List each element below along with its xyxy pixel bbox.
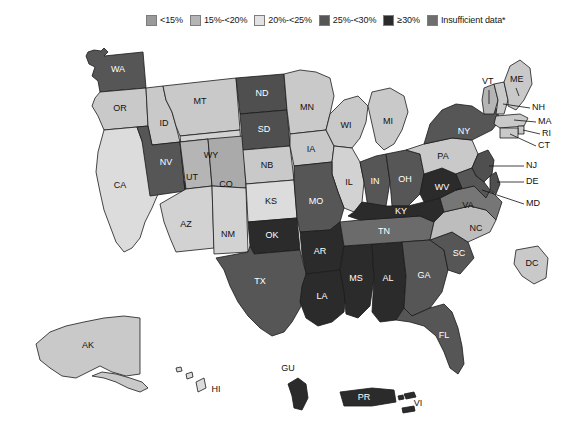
label-wi: WI bbox=[341, 120, 352, 130]
callout-vt: VT bbox=[482, 76, 494, 86]
label-tn: TN bbox=[378, 226, 390, 236]
label-vi: VI bbox=[414, 398, 423, 408]
state-nm[interactable] bbox=[212, 186, 248, 254]
legend-swatch-0 bbox=[146, 15, 157, 26]
legend-item-4: ≥30% bbox=[383, 15, 420, 26]
callout-de: DE bbox=[526, 176, 539, 186]
label-ky: KY bbox=[395, 206, 407, 216]
callout-md: MD bbox=[526, 198, 540, 208]
label-ia: IA bbox=[307, 144, 316, 154]
choropleth-map-figure: <15% 15%-<20% 20%-<25% 25%-<30% ≥30% Ins… bbox=[0, 0, 573, 421]
label-dc: DC bbox=[526, 258, 539, 268]
legend-item-2: 20%-<25% bbox=[254, 15, 311, 26]
label-gu: GU bbox=[281, 363, 295, 373]
us-map: WA OR ID MT WY NV CA UT CO AZ NM ND SD N… bbox=[0, 26, 573, 421]
label-ok: OK bbox=[265, 230, 278, 240]
label-or: OR bbox=[113, 103, 127, 113]
label-la: LA bbox=[316, 291, 327, 301]
label-al: AL bbox=[382, 273, 393, 283]
callout-ma: MA bbox=[538, 116, 552, 126]
label-ms: MS bbox=[349, 273, 363, 283]
legend-swatch-3 bbox=[319, 15, 330, 26]
label-il: IL bbox=[345, 177, 353, 187]
label-in: IN bbox=[371, 176, 380, 186]
label-oh: OH bbox=[398, 174, 412, 184]
label-ar: AR bbox=[314, 246, 327, 256]
label-mn: MN bbox=[300, 102, 314, 112]
label-wy: WY bbox=[204, 150, 219, 160]
label-id: ID bbox=[160, 118, 170, 128]
callout-ri: RI bbox=[542, 128, 551, 138]
legend-swatch-5 bbox=[427, 15, 438, 26]
state-hi-islands-2 bbox=[186, 372, 193, 379]
legend-item-1: 15%-<20% bbox=[190, 15, 247, 26]
label-wa: WA bbox=[111, 64, 125, 74]
label-tx: TX bbox=[254, 276, 266, 286]
us-map-svg: WA OR ID MT WY NV CA UT CO AZ NM ND SD N… bbox=[0, 26, 573, 421]
callout-nj: NJ bbox=[526, 160, 537, 170]
label-pa: PA bbox=[437, 151, 448, 161]
label-hi: HI bbox=[212, 384, 221, 394]
label-ny: NY bbox=[458, 126, 471, 136]
legend-item-3: 25%-<30% bbox=[319, 15, 376, 26]
label-co: CO bbox=[219, 179, 233, 189]
label-nc: NC bbox=[470, 223, 483, 233]
label-sc: SC bbox=[453, 248, 466, 258]
legend-label-0: <15% bbox=[160, 15, 183, 25]
state-hi[interactable] bbox=[196, 378, 206, 392]
label-nb: NB bbox=[261, 160, 274, 170]
state-fl[interactable] bbox=[396, 304, 464, 374]
state-hi-islands bbox=[176, 367, 182, 372]
label-mo: MO bbox=[309, 196, 324, 206]
territory-pr-small bbox=[398, 395, 404, 400]
legend-label-4: ≥30% bbox=[397, 15, 420, 25]
legend-label-1: 15%-<20% bbox=[204, 15, 247, 25]
label-sd: SD bbox=[258, 124, 271, 134]
legend-swatch-2 bbox=[254, 15, 265, 26]
label-nv: NV bbox=[160, 157, 173, 167]
label-pr: PR bbox=[358, 392, 371, 402]
label-ca: CA bbox=[114, 180, 127, 190]
label-ga: GA bbox=[417, 270, 430, 280]
legend-item-5: Insufficient data* bbox=[427, 15, 506, 26]
legend-swatch-1 bbox=[190, 15, 201, 26]
state-tx[interactable] bbox=[216, 246, 310, 336]
state-me[interactable] bbox=[504, 60, 532, 110]
legend-item-0: <15% bbox=[146, 15, 183, 26]
label-ak: AK bbox=[82, 340, 94, 350]
legend-swatch-4 bbox=[383, 15, 394, 26]
label-va: VA bbox=[462, 200, 473, 210]
label-fl: FL bbox=[439, 330, 450, 340]
label-ks: KS bbox=[265, 196, 277, 206]
label-ut: UT bbox=[186, 172, 198, 182]
legend-label-5: Insufficient data* bbox=[441, 15, 506, 25]
label-mt: MT bbox=[194, 96, 207, 106]
label-nm: NM bbox=[221, 229, 235, 239]
label-wv: WV bbox=[435, 182, 450, 192]
leader-ct bbox=[510, 134, 536, 146]
legend-label-2: 20%-<25% bbox=[268, 15, 311, 25]
territory-gu[interactable] bbox=[288, 378, 308, 410]
legend-label-3: 25%-<30% bbox=[333, 15, 376, 25]
leader-ri bbox=[523, 130, 540, 134]
callout-nh: NH bbox=[532, 102, 545, 112]
label-mi: MI bbox=[383, 116, 393, 126]
state-ak-aleutians bbox=[92, 372, 148, 392]
state-de[interactable] bbox=[490, 172, 500, 194]
label-az: AZ bbox=[180, 219, 192, 229]
callout-ct: CT bbox=[538, 140, 550, 150]
callout-me: ME bbox=[510, 74, 524, 84]
label-nd: ND bbox=[256, 88, 269, 98]
